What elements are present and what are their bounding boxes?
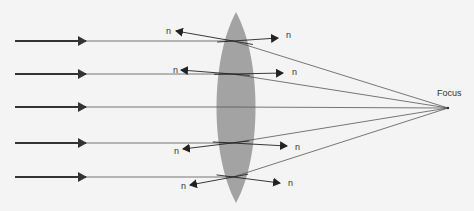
- lens-diagram: nnnnnnnn Focus: [0, 0, 474, 211]
- normal-label-6: n: [295, 142, 300, 152]
- normal-label-3: n: [173, 65, 178, 75]
- normal-label-8: n: [288, 178, 293, 188]
- refracted-ray-3: [232, 107, 448, 108]
- normal-arrow-right-4: [217, 175, 280, 183]
- focus-label: Focus: [437, 88, 462, 98]
- normal-label-5: n: [174, 146, 179, 156]
- normal-label-7: n: [181, 181, 186, 191]
- refracted-ray-2: [232, 74, 448, 108]
- refracted-ray-4: [232, 108, 448, 143]
- focus-point: [447, 107, 449, 109]
- normal-label-2: n: [286, 30, 291, 40]
- normal-label-4: n: [292, 67, 297, 77]
- refracted-ray-1: [233, 41, 448, 108]
- normal-label-1: n: [166, 26, 171, 36]
- refracted-ray-5: [233, 108, 448, 177]
